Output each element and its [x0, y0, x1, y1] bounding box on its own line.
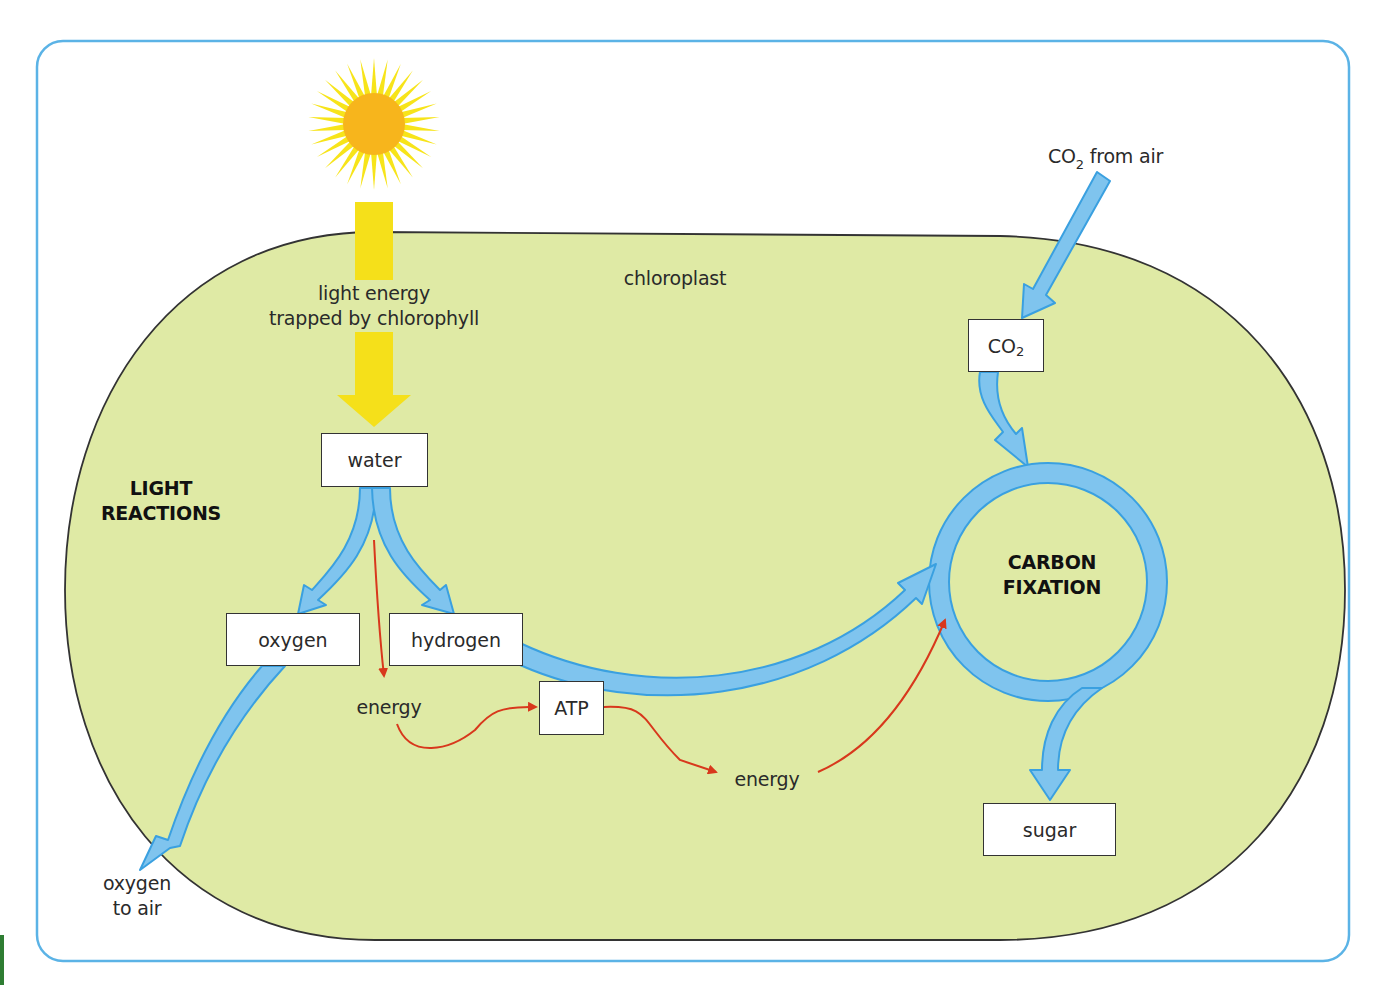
carbon-fixation-label-line1: CARBON	[1008, 550, 1097, 575]
light-energy-label-line2: trapped by chlorophyll	[269, 306, 479, 331]
light-reactions-label-line2: REACTIONS	[101, 501, 221, 526]
co2-from-air-suffix: from air	[1084, 145, 1163, 167]
oxygen-to-air-label-line2: to air	[113, 896, 162, 921]
co2-box: CO2	[968, 319, 1044, 372]
chloroplast-label: chloroplast	[624, 266, 727, 291]
water-box: water	[321, 433, 428, 487]
energy-label-1: energy	[356, 695, 421, 720]
atp-box: ATP	[539, 681, 604, 735]
co2-box-prefix: CO	[988, 335, 1016, 357]
light-beam-top	[355, 202, 393, 280]
energy-label-2: energy	[734, 767, 799, 792]
co2-from-air-prefix: CO	[1048, 145, 1076, 167]
sugar-box: sugar	[983, 803, 1116, 856]
light-energy-label-line1: light energy	[318, 281, 430, 306]
co2-from-air-label: CO2 from air	[1048, 144, 1163, 171]
hydrogen-box: hydrogen	[389, 613, 523, 666]
photosynthesis-diagram	[0, 0, 1375, 985]
carbon-fixation-label-line2: FIXATION	[1003, 575, 1101, 600]
co2-box-subscript: 2	[1016, 344, 1024, 359]
light-reactions-label-line1: LIGHT	[130, 476, 193, 501]
oxygen-box: oxygen	[226, 613, 360, 666]
page-edge-marker	[0, 935, 4, 985]
oxygen-to-air-label-line1: oxygen	[103, 871, 171, 896]
co2-from-air-subscript: 2	[1076, 157, 1084, 172]
